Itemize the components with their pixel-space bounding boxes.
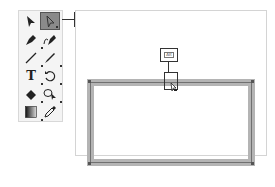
eyedropper-icon [44,106,56,118]
shape-builder-icon [43,88,57,100]
direct-selection-tool[interactable] [40,12,60,30]
pen-icon [25,34,37,46]
eyedropper-tool[interactable] [41,104,59,120]
type-icon: T [26,69,36,83]
submenu-indicator-icon [60,65,62,67]
rotate-icon [44,70,56,82]
shape-builder-tool[interactable] [41,86,59,102]
pen-tool[interactable] [22,32,40,48]
brush-icon [44,52,56,64]
eraser-tool[interactable] [22,86,40,102]
anchor-point-top-left[interactable] [88,80,91,83]
curvature-tool[interactable] [41,32,59,48]
curvature-pen-icon [43,34,57,46]
anchor-point-bottom-right[interactable] [251,162,254,165]
frame-path [90,82,252,163]
submenu-indicator-icon [60,83,62,85]
key-callout: Alt [160,48,178,62]
black-arrow-icon [26,16,36,28]
rectangle-frame[interactable] [87,79,255,166]
anchor-point-bottom-left[interactable] [88,162,91,165]
rotate-tool[interactable] [41,68,59,84]
line-icon [25,52,37,64]
submenu-indicator-icon [60,101,62,103]
alt-key-icon: Alt [164,52,174,58]
submenu-indicator-icon [56,26,58,28]
paintbrush-tool[interactable] [41,50,59,66]
callout-connector [168,62,169,72]
gradient-tool[interactable] [22,104,40,120]
white-arrow-icon [45,15,56,28]
cursor-icon [170,82,178,92]
type-tool[interactable]: T [22,68,40,84]
eraser-icon [25,88,37,100]
selection-tool[interactable] [22,14,40,30]
tools-panel: T [18,10,63,122]
line-tool[interactable] [22,50,40,66]
gradient-icon [25,106,37,118]
anchor-point-top-right[interactable] [251,80,254,83]
callout-connector [62,19,74,20]
